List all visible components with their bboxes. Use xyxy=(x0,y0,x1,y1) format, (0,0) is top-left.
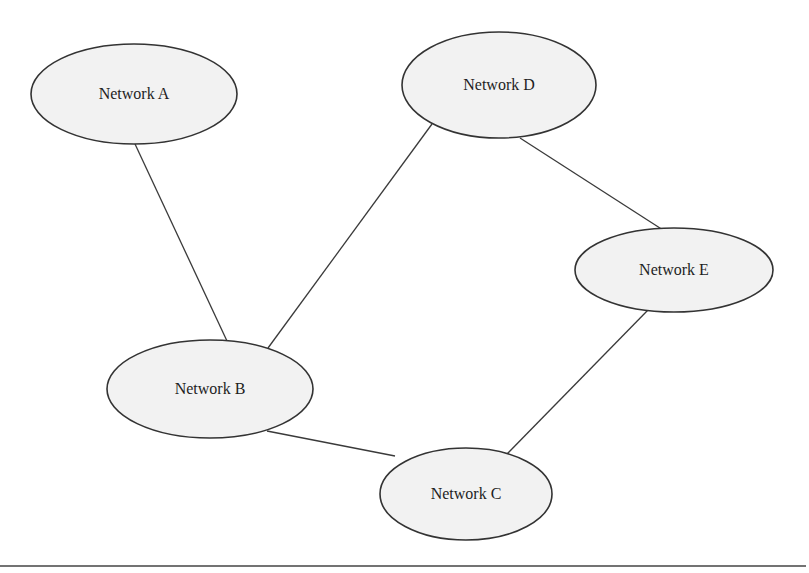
node-network-e: Network E xyxy=(575,228,773,312)
edge-e-c xyxy=(506,310,648,455)
edge-d-b xyxy=(268,124,432,348)
node-network-c: Network C xyxy=(380,448,552,540)
edge-d-e xyxy=(520,138,663,230)
node-label: Network B xyxy=(175,380,246,397)
node-network-a: Network A xyxy=(31,44,237,144)
node-network-b: Network B xyxy=(107,340,313,438)
edge-a-b xyxy=(135,144,227,341)
edge-b-c xyxy=(267,431,395,456)
node-label: Network A xyxy=(99,85,170,102)
node-label: Network E xyxy=(639,261,709,278)
nodes-layer: Network A Network D Network E Network B … xyxy=(31,32,773,540)
node-network-d: Network D xyxy=(402,32,596,138)
network-diagram: Network A Network D Network E Network B … xyxy=(0,0,809,573)
node-label: Network D xyxy=(463,76,535,93)
node-label: Network C xyxy=(431,485,502,502)
